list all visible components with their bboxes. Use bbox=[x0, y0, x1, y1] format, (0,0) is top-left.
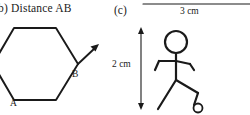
part-b-heading: b) Distance AB bbox=[0, 3, 72, 15]
arrow-head-down-icon bbox=[138, 103, 144, 110]
stick-figure bbox=[155, 31, 203, 113]
hexagon-shape bbox=[0, 28, 78, 100]
stick-figure-foot bbox=[194, 104, 203, 113]
hexagon-vertex-label-b: B bbox=[72, 70, 78, 80]
arrow-head-up-icon bbox=[138, 27, 144, 34]
part-c-heading: (c) bbox=[114, 5, 127, 17]
hexagon-vertex-label-a: A bbox=[10, 99, 17, 109]
stick-figure-head bbox=[165, 31, 187, 53]
stick-figure-arms bbox=[155, 61, 194, 70]
width-dimension-label: 3 cm bbox=[180, 7, 199, 17]
height-dimension-arrow bbox=[138, 27, 144, 110]
figure-drawing-canvas bbox=[0, 0, 250, 115]
stick-figure-legs bbox=[158, 80, 203, 113]
vector-arrow-from-b bbox=[78, 44, 99, 64]
worksheet-figure-panel: b) Distance AB A B (c) 3 cm 2 cm bbox=[0, 0, 250, 115]
height-dimension-label: 2 cm bbox=[112, 60, 131, 70]
